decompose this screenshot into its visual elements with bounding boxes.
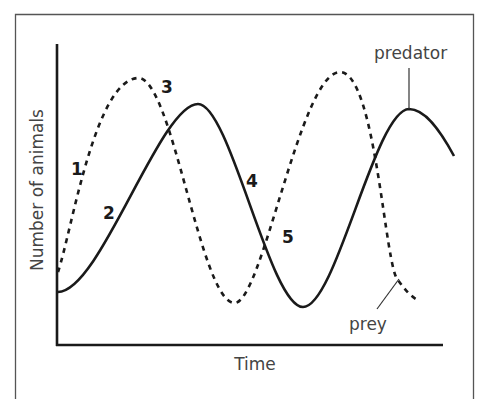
figure-frame xyxy=(16,15,474,399)
prey-leader-line xyxy=(377,279,399,309)
point-label-5: 5 xyxy=(282,227,294,247)
point-label-4: 4 xyxy=(246,171,258,191)
prey-label: prey xyxy=(349,314,387,334)
y-axis-label: Number of animals xyxy=(27,109,47,271)
point-label-3: 3 xyxy=(161,77,173,97)
point-label-2: 2 xyxy=(103,203,115,223)
point-label-1: 1 xyxy=(71,159,83,179)
x-axis-label: Time xyxy=(233,354,276,374)
predator-label: predator xyxy=(374,43,447,63)
predator-prey-diagram: predator prey 1 2 3 4 5 Time Number of a… xyxy=(0,0,484,399)
prey-curve xyxy=(58,72,420,303)
